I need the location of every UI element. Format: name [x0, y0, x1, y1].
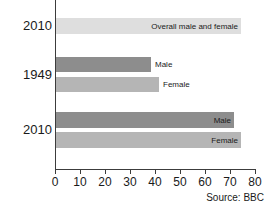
- axis-tick-10: [80, 170, 81, 174]
- bar-label-male-2010: Male: [214, 116, 234, 125]
- axis-tick-label-60: 60: [193, 175, 217, 189]
- axis-tick-label-30: 30: [118, 175, 142, 189]
- axis-tick-50: [180, 170, 181, 174]
- bar-female-2010: Female: [56, 132, 241, 148]
- bar-label-male-1949: Male: [151, 60, 172, 69]
- axis-tick-30: [130, 170, 131, 174]
- bar-chart: 0 10 20 30 40 50 60 70 80 2010 1949 2010…: [0, 0, 270, 215]
- axis-tick-60: [205, 170, 206, 174]
- axis-tick-label-10: 10: [68, 175, 92, 189]
- bar-female-1949: Female: [56, 77, 159, 92]
- bar-label-female-2010: Female: [211, 136, 241, 145]
- axis-tick-80: [255, 170, 256, 174]
- axis-tick-label-50: 50: [168, 175, 192, 189]
- category-label-top-2010: 2010: [6, 18, 52, 33]
- source-note: Source: BBC: [206, 192, 264, 204]
- bar-overall-male-and-female: Overall male and female: [56, 18, 241, 34]
- category-label-bottom-2010: 2010: [6, 122, 52, 137]
- axis-tick-label-40: 40: [143, 175, 167, 189]
- bar-male-2010: Male: [56, 112, 234, 128]
- axis-tick-40: [155, 170, 156, 174]
- axis-tick-label-80: 80: [243, 175, 267, 189]
- axis-tick-label-70: 70: [218, 175, 242, 189]
- plot-area: 0 10 20 30 40 50 60 70 80 2010 1949 2010…: [0, 0, 270, 175]
- axis-tick-70: [230, 170, 231, 174]
- bar-label-female-1949: Female: [159, 80, 190, 89]
- bar-label-overall: Overall male and female: [151, 22, 241, 31]
- axis-tick-label-20: 20: [93, 175, 117, 189]
- axis-tick-label-0: 0: [43, 175, 67, 189]
- axis-tick-0: [55, 170, 56, 174]
- axis-tick-20: [105, 170, 106, 174]
- bar-male-1949: Male: [56, 57, 151, 72]
- category-label-1949: 1949: [6, 67, 52, 82]
